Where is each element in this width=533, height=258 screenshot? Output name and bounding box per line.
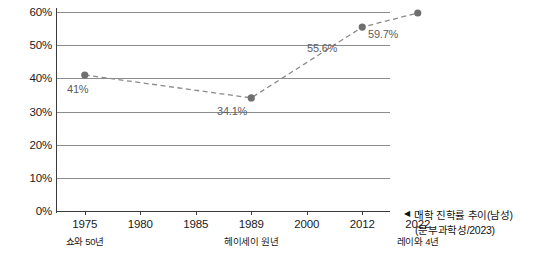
chart-figure: 60% 50% 40% 30% 20% 10% 0% 41% 34.1% 55.… (0, 0, 533, 258)
caption-source: (문부과학성/2023) (404, 223, 529, 238)
left-arrow-icon: ◀ (404, 208, 410, 221)
x-axis-era-labels: 쇼와 50년 헤이세이 원년 레이와 4년 (57, 234, 390, 248)
y-axis-labels: 60% 50% 40% 30% 20% 10% 0% (14, 12, 52, 211)
x-axis-ticks (57, 211, 390, 216)
x-tick-label-1975: 1975 (72, 218, 97, 230)
series-line-dashed (85, 13, 418, 98)
y-tick-label: 30% (18, 107, 52, 119)
data-point-1975 (81, 71, 88, 78)
data-point-1989 (248, 94, 255, 101)
point-label-1975: 41% (67, 83, 88, 95)
x-tick (85, 211, 86, 215)
caption-title: 대학 진학률 추이(남성) (414, 208, 513, 223)
x-tick (140, 211, 141, 215)
x-tick-label-1985: 1985 (183, 218, 208, 230)
y-tick-label: 20% (18, 140, 52, 152)
y-tick-label: 60% (18, 7, 52, 19)
chart-caption: ◀ 대학 진학률 추이(남성) (문부과학성/2023) (404, 208, 529, 238)
x-tick (307, 211, 308, 215)
data-point-2012 (359, 24, 366, 31)
y-tick-label: 40% (18, 73, 52, 85)
y-tick-label: 10% (18, 173, 52, 185)
y-tick-label: 0% (18, 206, 52, 218)
caption-line-1: ◀ 대학 진학률 추이(남성) (404, 208, 529, 223)
x-tick (251, 211, 252, 215)
x-tick-label-1980: 1980 (128, 218, 153, 230)
x-tick-label-1989: 1989 (239, 218, 264, 230)
data-point-2022 (414, 9, 421, 16)
x-tick (362, 211, 363, 215)
point-label-2012: 55.6% (307, 42, 337, 54)
x-tick (196, 211, 197, 215)
point-label-1989: 34.1% (217, 105, 247, 117)
x-sub-label-showa50: 쇼와 50년 (66, 234, 104, 248)
x-tick-label-2000: 2000 (294, 218, 319, 230)
point-label-2022: 59.7% (368, 28, 398, 40)
x-axis-labels: 1975 1980 1985 1989 2000 2012 2022 (57, 218, 390, 232)
x-tick-label-2012: 2012 (350, 218, 375, 230)
x-sub-label-heisei1: 헤이세이 원년 (224, 234, 279, 248)
y-tick-label: 50% (18, 40, 52, 52)
